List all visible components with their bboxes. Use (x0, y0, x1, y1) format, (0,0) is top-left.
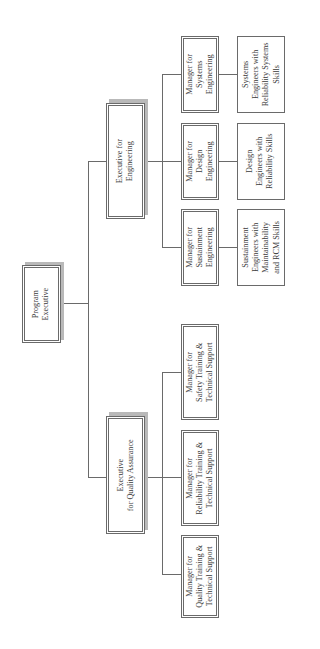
eng-sustainment-box[interactable]: Sustainment Engineers with Maintainabili… (237, 209, 285, 286)
eng-design-label: Design Engineers with Reliability Skills (246, 134, 277, 189)
mgr-reliability-label: Manager for Reliability Training & Techn… (185, 442, 216, 515)
mgr-quality-box[interactable]: Manager for Quality Training & Technical… (181, 535, 219, 618)
eng-sustainment-label: Sustainment Engineers with Maintainabili… (241, 221, 282, 274)
eng-systems-box[interactable]: Systems Engineers with Reliability Syste… (237, 36, 285, 113)
exec-quality-box[interactable]: Executive for Quality Assurance (106, 416, 145, 534)
mgr-sustainment-label: Manager for Sustainment Engineering (185, 227, 216, 268)
connector-to-exec-quality (88, 477, 106, 478)
exec-engineering-label: Executive for Engineering (115, 139, 135, 183)
exec-quality-label: Executive for Quality Assurance (115, 439, 135, 511)
connector-eng-bus (162, 74, 163, 248)
mgr-reliability-box[interactable]: Manager for Reliability Training & Techn… (181, 430, 219, 526)
program-executive-box[interactable]: Program Executive (22, 265, 61, 343)
eng-systems-label: Systems Engineers with Reliability Syste… (241, 43, 282, 107)
connector-sustainment-to-engineers (218, 247, 237, 248)
mgr-sustainment-box[interactable]: Manager for Sustainment Engineering (181, 209, 219, 286)
connector-to-exec-engineering (88, 161, 106, 162)
mgr-design-label: Manager for Design Engineering (185, 141, 216, 182)
connector-design-to-engineers (218, 161, 237, 162)
mgr-systems-label: Manager for Systems Engineering (185, 54, 216, 95)
connector-qa-bus (162, 372, 163, 575)
mgr-design-box[interactable]: Manager for Design Engineering (181, 123, 219, 200)
mgr-safety-box[interactable]: Manager for Safety Training & Technical … (181, 324, 219, 420)
eng-design-box[interactable]: Design Engineers with Reliability Skills (237, 123, 285, 200)
connector-main-bus (88, 161, 89, 478)
connector-to-mgr-systems (162, 74, 181, 75)
connector-systems-to-engineers (218, 74, 237, 75)
connector-to-mgr-safety (162, 372, 181, 373)
connector-program-trunk (61, 303, 88, 304)
mgr-safety-label: Manager for Safety Training & Technical … (185, 342, 216, 402)
mgr-quality-label: Manager for Quality Training & Technical… (185, 545, 216, 608)
mgr-systems-box[interactable]: Manager for Systems Engineering (181, 36, 219, 113)
program-executive-label: Program Executive (31, 288, 51, 321)
connector-to-mgr-quality (162, 574, 181, 575)
connector-to-mgr-sustainment (162, 247, 181, 248)
exec-engineering-box[interactable]: Executive for Engineering (106, 103, 145, 219)
